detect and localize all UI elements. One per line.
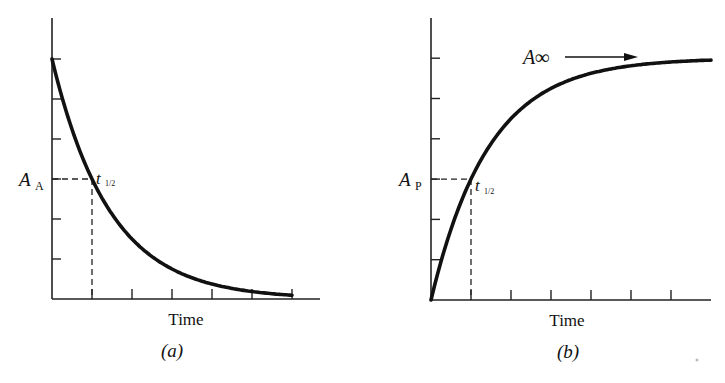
half-life-guides (52, 179, 92, 299)
decay-curve (52, 59, 292, 295)
y-marker-subscript: A (35, 179, 44, 193)
y-marker-label: A (17, 169, 31, 190)
y-marker-subscript: P (415, 179, 422, 193)
x-axis-label: Time (168, 310, 203, 329)
panel-caption: (a) (161, 340, 183, 362)
panel-b: A P t 1/2 A∞ Time (b) (397, 18, 711, 363)
y-ticks (431, 58, 440, 260)
panel-a: A A t 1/2 Time (a) (17, 18, 320, 362)
half-life-subscript: 1/2 (484, 187, 494, 196)
half-life-subscript: 1/2 (105, 179, 115, 188)
half-life-label: t (475, 176, 481, 195)
arrow-head-icon (624, 53, 638, 61)
x-ticks (471, 290, 671, 300)
speck (696, 359, 699, 362)
panel-caption: (b) (557, 341, 579, 363)
growth-curve (431, 60, 711, 300)
x-axis-label: Time (549, 311, 584, 330)
half-life-label: t (96, 169, 102, 188)
chart-canvas: A A t 1/2 Time (a) A P t 1/2 A∞ Time (b) (0, 0, 725, 383)
asymptote-label: A∞ (521, 46, 549, 68)
y-marker-label: A (397, 169, 411, 190)
